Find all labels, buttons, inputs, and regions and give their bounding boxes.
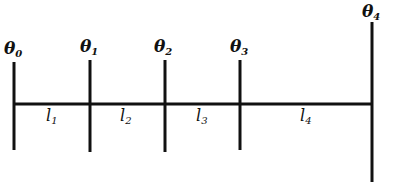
- node-label-theta3-subscript: 3: [241, 46, 248, 57]
- segment-label-l2: l2: [120, 108, 132, 126]
- node-label-theta2-symbol: θ: [154, 36, 165, 56]
- segment-label-l3-subscript: 3: [201, 115, 207, 126]
- segment-label-l3: l3: [196, 108, 208, 126]
- node-label-theta4-subscript: 4: [373, 11, 380, 22]
- node-label-theta1-symbol: θ: [80, 36, 91, 56]
- node-label-theta3: θ3: [230, 38, 248, 57]
- segment-label-l4-subscript: 4: [305, 115, 311, 126]
- node-label-theta3-symbol: θ: [230, 36, 241, 56]
- diagram-lines: [0, 0, 395, 192]
- node-label-theta4-symbol: θ: [362, 1, 373, 21]
- node-label-theta0-symbol: θ: [4, 38, 15, 58]
- node-label-theta1: θ1: [80, 38, 98, 57]
- node-label-theta4: θ4: [362, 3, 380, 22]
- node-label-theta0: θ0: [4, 40, 22, 59]
- segment-label-l1: l1: [46, 108, 58, 126]
- segment-label-l1-subscript: 1: [51, 115, 57, 126]
- node-label-theta0-subscript: 0: [15, 48, 22, 59]
- node-label-theta2: θ2: [154, 38, 172, 57]
- node-label-theta2-subscript: 2: [165, 46, 172, 57]
- segment-label-l4: l4: [300, 108, 312, 126]
- node-label-theta1-subscript: 1: [91, 46, 98, 57]
- segment-label-l2-subscript: 2: [125, 115, 131, 126]
- diagram-canvas: θ0θ1θ2θ3θ4l1l2l3l4: [0, 0, 395, 192]
